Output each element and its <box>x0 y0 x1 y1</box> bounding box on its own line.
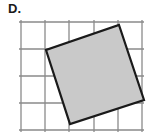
figure-panel: D. <box>0 0 158 136</box>
grid-and-shape-figure <box>0 0 158 136</box>
tilted-square-shape <box>46 25 144 124</box>
